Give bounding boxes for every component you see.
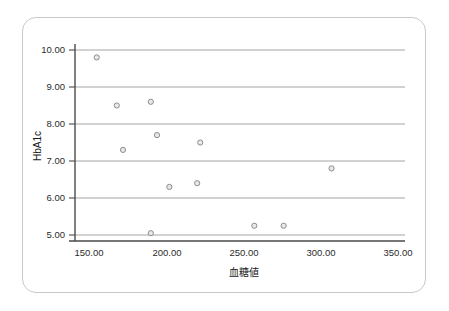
data-point xyxy=(167,184,172,189)
gridlines xyxy=(75,50,405,235)
data-point xyxy=(120,147,125,152)
y-tick-label-8: 8.00 xyxy=(47,118,66,129)
x-tick-labels: 150.00 200.00 250.00 300.00 350.00 xyxy=(74,247,412,258)
data-point xyxy=(94,55,99,60)
data-point xyxy=(114,103,119,108)
y-tick-marks xyxy=(69,50,75,235)
y-tick-labels: 10.00 9.00 8.00 7.00 6.00 5.00 xyxy=(41,44,65,240)
y-tick-label-7: 7.00 xyxy=(47,155,66,166)
x-tick-label-150: 150.00 xyxy=(74,247,103,258)
chart-card: 10.00 9.00 8.00 7.00 6.00 5.00 150.00 20… xyxy=(22,17,426,293)
data-point xyxy=(252,223,257,228)
x-tick-label-300: 300.00 xyxy=(306,247,335,258)
axes xyxy=(69,44,405,241)
y-tick-label-5: 5.00 xyxy=(47,229,66,240)
data-points-layer xyxy=(94,55,334,236)
data-point xyxy=(281,223,286,228)
data-point xyxy=(195,181,200,186)
data-point xyxy=(198,140,203,145)
data-point xyxy=(148,231,153,236)
scatter-plot: 10.00 9.00 8.00 7.00 6.00 5.00 150.00 20… xyxy=(23,18,427,294)
y-tick-label-10: 10.00 xyxy=(41,44,65,55)
x-tick-label-350: 350.00 xyxy=(383,247,412,258)
scatter-plot-svg: 10.00 9.00 8.00 7.00 6.00 5.00 150.00 20… xyxy=(23,18,427,294)
x-tick-label-200: 200.00 xyxy=(152,247,181,258)
x-axis-title: 血糖値 xyxy=(229,266,259,278)
data-point xyxy=(329,166,334,171)
y-tick-label-6: 6.00 xyxy=(47,192,66,203)
data-point xyxy=(154,133,159,138)
data-point xyxy=(148,99,153,104)
y-tick-label-9: 9.00 xyxy=(47,81,66,92)
x-tick-label-250: 250.00 xyxy=(229,247,258,258)
y-axis-title: HbA1c xyxy=(32,131,43,161)
